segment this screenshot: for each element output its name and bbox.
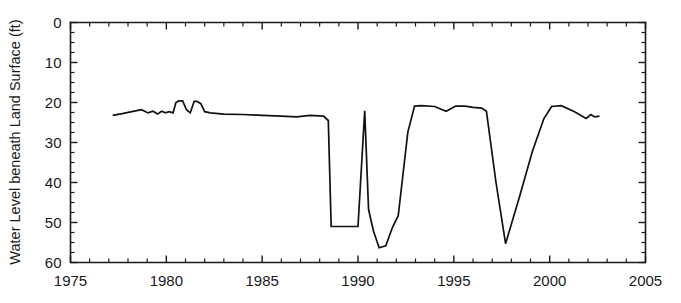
x-tick-labels: 1975198019851990199520002005	[54, 272, 662, 289]
y-tick-label: 10	[45, 54, 62, 71]
x-tick-label: 2005	[629, 272, 662, 289]
data-series-water-level	[113, 101, 600, 248]
chart-page: 0102030405060 19751980198519901995200020…	[0, 0, 681, 303]
y-tick-label: 30	[45, 134, 62, 151]
x-tick-label: 1980	[150, 272, 183, 289]
y-tick-label: 50	[45, 214, 62, 231]
y-tick-label: 0	[53, 14, 61, 31]
x-tick-label: 1985	[245, 272, 278, 289]
series-line	[113, 101, 600, 248]
x-tick-label: 2000	[533, 272, 566, 289]
water-level-line-chart: 0102030405060 19751980198519901995200020…	[0, 0, 681, 303]
x-tick-label: 1975	[54, 272, 87, 289]
y-axis-title: Water Level beneath Land Surface (ft)	[7, 19, 23, 264]
y-tick-label: 60	[45, 254, 62, 271]
x-tick-label: 1990	[341, 272, 374, 289]
y-tick-label: 40	[45, 174, 62, 191]
y-tick-labels: 0102030405060	[45, 14, 62, 271]
x-tick-label: 1995	[437, 272, 470, 289]
y-tick-label: 20	[45, 94, 62, 111]
